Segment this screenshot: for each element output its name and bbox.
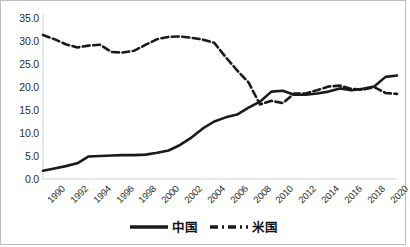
dashed-line-key-icon: [209, 221, 249, 233]
legend-label-usa: 米国: [252, 217, 278, 236]
series-line-usa: [43, 35, 397, 104]
chart-legend: 中国 米国: [1, 217, 405, 236]
legend-item-china: 中国: [129, 217, 198, 236]
series-line-china: [43, 76, 397, 171]
y-axis-tick-15.0: 15.0: [1, 105, 39, 115]
y-axis-tick-0.0: 0.0: [1, 174, 39, 184]
y-axis-tick-30.0: 30.0: [1, 36, 39, 46]
line-chart-figure: 0.05.010.015.020.025.030.035.0 199019921…: [0, 0, 406, 245]
solid-line-key-icon: [129, 221, 169, 233]
plot-area: [1, 1, 407, 246]
y-axis-tick-10.0: 10.0: [1, 128, 39, 138]
y-axis-tick-25.0: 25.0: [1, 59, 39, 69]
legend-item-usa: 米国: [209, 217, 278, 236]
y-axis-tick-20.0: 20.0: [1, 82, 39, 92]
y-axis-tick-5.0: 5.0: [1, 151, 39, 161]
y-axis-tick-35.0: 35.0: [1, 13, 39, 23]
legend-label-china: 中国: [172, 217, 198, 236]
